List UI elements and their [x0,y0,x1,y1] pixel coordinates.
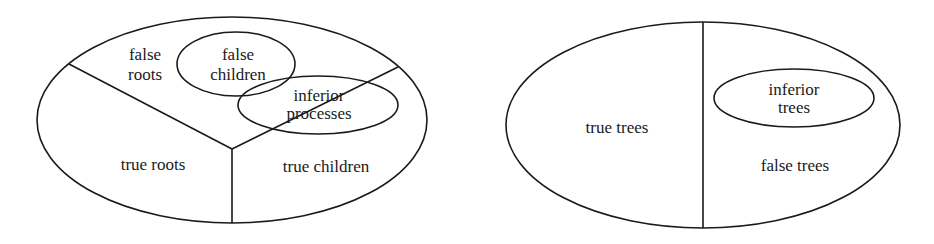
label-inferior-trees-2: trees [778,98,810,117]
label-false-roots-1: false [129,45,161,64]
label-false-children-1: false [222,45,254,64]
label-false-trees: false trees [761,156,829,175]
label-false-children-2: children [210,65,266,84]
label-false-roots-2: roots [128,65,162,84]
label-inferior-processes-1: inferior [294,86,345,105]
diagram-canvas: false roots false children inferior proc… [0,0,934,244]
process-diagram: false roots false children inferior proc… [37,17,427,223]
tree-diagram: true trees inferior trees false trees [506,22,900,228]
label-inferior-trees-1: inferior [769,80,820,99]
label-inferior-processes-2: processes [286,104,351,123]
label-true-trees: true trees [586,118,649,137]
label-true-roots: true roots [121,155,186,174]
label-true-children: true children [283,157,370,176]
false-children-ellipse [177,32,295,96]
